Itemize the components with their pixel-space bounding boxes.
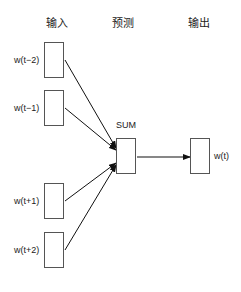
output-label: w(t) <box>214 151 229 161</box>
input-label-t-plus-2: w(t+2) <box>14 245 39 255</box>
input-box-t-minus-2 <box>44 42 64 78</box>
input-label-t-plus-1: w(t+1) <box>14 196 39 206</box>
sum-box <box>116 138 136 174</box>
input-label-t-minus-2: w(t−2) <box>14 55 39 65</box>
input-box-t-plus-1 <box>44 183 64 219</box>
input-box-t-plus-2 <box>44 232 64 268</box>
output-box <box>190 138 210 174</box>
input-label-t-minus-1: w(t−1) <box>14 103 39 113</box>
sum-label: SUM <box>116 120 136 130</box>
input-box-t-minus-1 <box>44 90 64 126</box>
